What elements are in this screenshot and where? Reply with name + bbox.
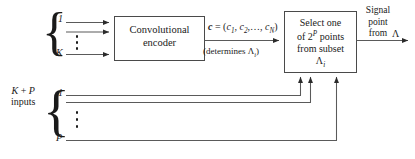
select-label-line2-post: points: [317, 31, 344, 42]
bottom-input-label-first: 1: [58, 87, 63, 98]
bottom-group-p: P: [29, 85, 35, 96]
select-label-line3: from subset: [297, 43, 344, 54]
bottom-line-p: [66, 77, 337, 141]
bottom-line-1: [66, 77, 301, 96]
select-label-line2-pre: of 2: [297, 31, 313, 42]
bottom-input-brace: {: [43, 83, 70, 139]
top-input-label-first: 1: [58, 13, 63, 24]
determines-note: (determines Λi): [203, 46, 259, 58]
select-label-line4: Λi: [316, 55, 325, 66]
codeword-sep2: ,…,: [248, 21, 266, 32]
output-label-line2: point: [368, 17, 388, 27]
top-input-ellipsis-icon: [75, 35, 79, 50]
bottom-input-label-last: P: [56, 132, 62, 143]
select-label-line2: of 2P points: [297, 31, 344, 42]
select-label-lambda-sub: i: [323, 61, 325, 69]
output-lambda-symbol: Λ: [392, 28, 399, 39]
output-label-line1: Signal: [366, 5, 390, 15]
bottom-group-inputs-word: inputs: [11, 96, 35, 107]
bottom-line-2: [66, 77, 311, 103]
determines-note-pre: (determines Λ: [203, 46, 254, 56]
bottom-group-plus: +: [18, 85, 29, 96]
determines-note-post: ): [256, 46, 259, 56]
bottom-input-ellipsis-icon: [75, 111, 79, 128]
encoder-label-line1: Convolutional: [129, 24, 189, 35]
top-input-label-last: K: [56, 47, 63, 58]
select-box-label: Select one of 2P points from subset Λi: [284, 17, 357, 70]
codeword-expression: c = (c1, c2,…, cN): [208, 21, 278, 35]
bottom-inputs-group-label: K + P inputs: [11, 85, 35, 107]
codeword-equals: = (: [212, 21, 226, 32]
output-label-line3: from: [369, 28, 387, 38]
codeword-close: ): [274, 21, 277, 32]
encoder-box-label: Convolutional encoder: [114, 24, 205, 50]
select-label-line1: Select one: [300, 17, 341, 28]
top-input-brace: {: [42, 6, 67, 58]
encoder-label-line2: encoder: [143, 37, 176, 48]
coded-modulation-diagram: { 1 K Convolutional encoder c = (c1, c2,…: [0, 0, 415, 159]
